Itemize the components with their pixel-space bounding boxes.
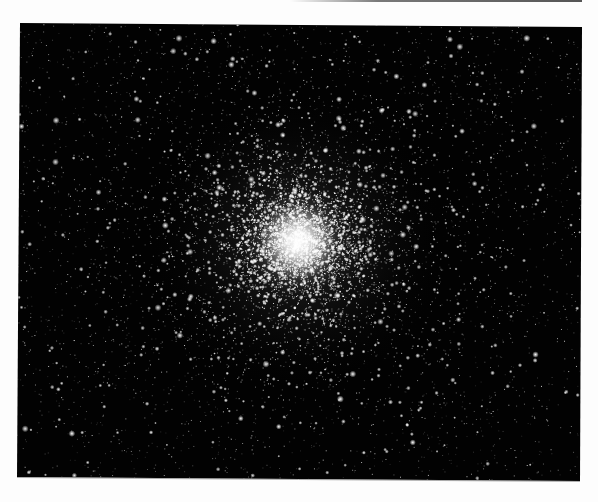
star-cluster-photo [0, 0, 598, 502]
scanned-page [0, 0, 598, 502]
